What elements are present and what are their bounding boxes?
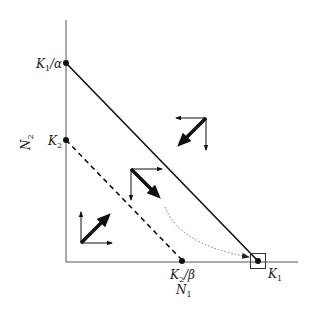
point-k1 bbox=[255, 258, 261, 264]
y-axis-label: N2 bbox=[19, 134, 35, 151]
label-k1: K1 bbox=[267, 267, 282, 283]
label-k1-over-alpha: K1/α bbox=[35, 57, 62, 73]
vector-cluster-middle bbox=[131, 169, 162, 200]
phase-plane-diagram: K1/α K2 K2/β K1 N1 N2 bbox=[0, 0, 318, 310]
point-k1-over-alpha bbox=[63, 60, 69, 66]
x-axis-label: N1 bbox=[175, 283, 192, 299]
vector-cluster-upper bbox=[176, 118, 206, 150]
vector-cluster-lower bbox=[81, 212, 112, 243]
trajectory-curve bbox=[165, 207, 249, 257]
label-k2-over-beta: K2/β bbox=[169, 268, 195, 284]
point-k2 bbox=[63, 137, 69, 143]
point-k2-over-beta bbox=[179, 258, 185, 264]
label-k2: K2 bbox=[47, 134, 62, 150]
